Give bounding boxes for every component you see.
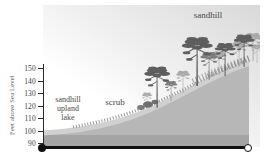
elevation-diagram: sandhill scrub sandhill upland lake Feet…	[0, 0, 272, 158]
tick-mark	[38, 118, 43, 119]
y-tick-130: 130	[16, 89, 43, 99]
y-tick-100: 100	[16, 126, 43, 136]
y-tick-label: 140	[16, 77, 36, 86]
y-tick-label: 120	[16, 102, 36, 111]
y-axis-title: Feet above Sea Level	[8, 75, 15, 135]
y-tick-label: 100	[16, 127, 36, 136]
zone-label-scrub: scrub	[100, 98, 130, 108]
origin-marker-filled-dot	[38, 144, 46, 152]
tick-mark	[38, 68, 43, 69]
zone-label-sandhill-upland-lake: sandhill upland lake	[44, 96, 92, 122]
tick-mark	[38, 81, 43, 82]
terrain-illustration	[43, 5, 260, 147]
y-tick-140: 140	[16, 76, 43, 86]
y-tick-110: 110	[16, 114, 43, 124]
zone-label-sandhill: sandhill	[178, 11, 238, 21]
y-tick-label: 90	[16, 139, 36, 148]
lake-label-line-3: lake	[44, 114, 92, 123]
baseline	[42, 146, 249, 149]
tick-mark	[38, 131, 43, 132]
y-tick-150: 150	[16, 63, 43, 73]
y-tick-120: 120	[16, 101, 43, 111]
tick-mark	[38, 93, 43, 94]
end-marker-open-dot	[244, 144, 252, 152]
y-axis-line	[43, 64, 44, 147]
y-tick-label: 110	[16, 114, 36, 123]
y-tick-label: 130	[16, 89, 36, 98]
diagram-panel	[43, 5, 260, 147]
tick-mark	[38, 106, 43, 107]
y-tick-label: 150	[16, 64, 36, 73]
